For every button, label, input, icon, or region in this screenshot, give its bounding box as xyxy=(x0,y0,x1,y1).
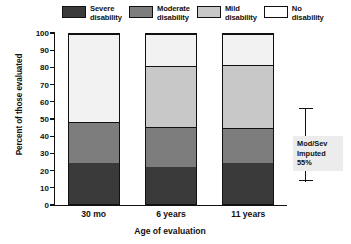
y-tick-label: 70 xyxy=(40,80,49,89)
y-tick-label: 40 xyxy=(40,132,49,141)
bar-6-years[interactable] xyxy=(145,33,197,205)
y-axis-title: Percent of those evaluated xyxy=(15,20,24,190)
y-tick-label: 80 xyxy=(40,63,49,72)
y-tick xyxy=(50,170,55,171)
imputed-annotation: Mod/Sev Imputed 55% xyxy=(292,104,350,184)
bar-segment-moderate xyxy=(69,122,119,163)
y-tick xyxy=(50,204,55,205)
y-tick xyxy=(50,32,55,33)
legend-item-severe: Severe disability xyxy=(62,4,122,22)
legend-label-moderate: Moderate disability xyxy=(157,4,190,22)
legend-swatch-mild xyxy=(197,6,221,18)
bar-segment-severe xyxy=(69,163,119,204)
annotation-text-box: Mod/Sev Imputed 55% xyxy=(293,136,343,171)
bar-segment-moderate xyxy=(146,127,196,168)
y-tick xyxy=(50,84,55,85)
annotation-line-1: Mod/Sev xyxy=(297,139,340,149)
legend-label-mild: Mild disability xyxy=(225,4,257,22)
bar-segment-mild xyxy=(223,65,273,128)
y-tick-label: 20 xyxy=(40,166,49,175)
legend-swatch-severe xyxy=(62,6,86,18)
y-tick-label: 90 xyxy=(40,46,49,55)
bar-segment-mild xyxy=(146,66,196,126)
x-axis-title: Age of evaluation xyxy=(40,226,300,236)
bar-segment-moderate xyxy=(223,128,273,164)
x-tick-label: 30 mo xyxy=(54,209,134,219)
y-tick-label: 50 xyxy=(40,115,49,124)
bar-segment-no xyxy=(146,34,196,66)
y-tick xyxy=(50,67,55,68)
legend-swatch-moderate xyxy=(129,6,153,18)
bar-segment-severe xyxy=(146,167,196,204)
y-tick-label: 30 xyxy=(40,149,49,158)
legend-item-moderate: Moderate disability xyxy=(129,4,190,22)
x-tick-label: 11 years xyxy=(208,209,288,219)
bar-segment-no xyxy=(223,34,273,65)
stacked-bar-chart-figure: Severe disability Moderate disability Mi… xyxy=(0,0,351,244)
y-tick xyxy=(50,118,55,119)
annotation-bracket-top-cap xyxy=(299,108,313,109)
legend-item-mild: Mild disability xyxy=(197,4,257,22)
annotation-line-3: 55% xyxy=(297,158,340,168)
x-axis-line xyxy=(54,205,287,206)
y-tick-label: 60 xyxy=(40,97,49,106)
annotation-bracket-bottom-cap xyxy=(299,180,313,181)
annotation-line-2: Imputed xyxy=(297,149,340,159)
y-tick-label: 0 xyxy=(45,201,49,210)
legend-swatch-no-disability xyxy=(264,6,288,18)
bar-segment-no xyxy=(69,34,119,122)
plot-area: 0102030405060708090100 30 mo6 years11 ye… xyxy=(55,33,287,205)
legend-label-severe: Severe disability xyxy=(90,4,122,22)
bar-segment-severe xyxy=(223,163,273,204)
y-tick xyxy=(50,187,55,188)
y-tick xyxy=(50,101,55,102)
x-tick-label: 6 years xyxy=(131,209,211,219)
legend-label-no-disability: No disability xyxy=(292,4,324,22)
chart-legend: Severe disability Moderate disability Mi… xyxy=(62,4,346,30)
bar-11-years[interactable] xyxy=(222,33,274,205)
bar-30-mo[interactable] xyxy=(68,33,120,205)
y-tick-label: 10 xyxy=(40,183,49,192)
y-tick xyxy=(50,136,55,137)
y-tick xyxy=(50,50,55,51)
y-tick-label: 100 xyxy=(36,29,49,38)
y-tick xyxy=(50,153,55,154)
legend-item-no-disability: No disability xyxy=(264,4,324,22)
